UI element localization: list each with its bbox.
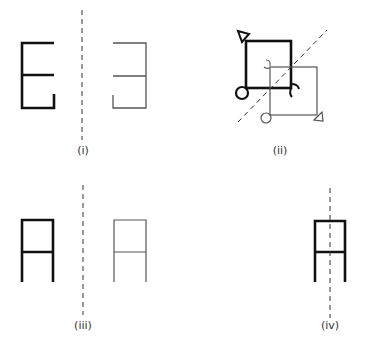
reflected-triangle-marker: [314, 112, 323, 121]
original-e-shape: [22, 43, 54, 108]
mirror-line-ii: [238, 30, 327, 122]
diagram-canvas: [0, 0, 365, 350]
reflected-square: [270, 67, 317, 115]
figure-label-iv: (iv): [321, 319, 339, 332]
figure-label-i: (i): [77, 144, 89, 157]
figure-iii: [22, 185, 146, 315]
figure-label-ii: (ii): [273, 144, 288, 157]
figure-i: [22, 10, 146, 140]
reflected-a-shape: [114, 220, 146, 282]
reflected-circle-marker: [261, 113, 271, 123]
figure-iv: [315, 188, 345, 318]
original-square: [246, 41, 291, 88]
original-circle-marker: [236, 87, 248, 99]
reflected-hook-mark: [264, 60, 270, 68]
original-a-shape: [22, 220, 53, 282]
figure-ii: [236, 30, 327, 123]
reflected-e-shape: [113, 43, 146, 108]
figure-label-iii: (iii): [74, 319, 92, 332]
